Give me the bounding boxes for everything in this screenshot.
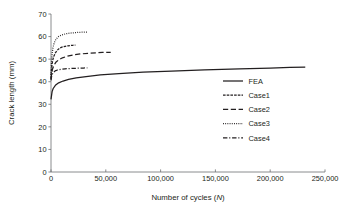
axes: [51, 14, 325, 172]
legend-label-fea: FEA: [249, 77, 263, 86]
x-axis-title: Number of cycles (N): [151, 193, 225, 202]
legend-label-case1: Case1: [249, 91, 270, 100]
x-tick-label: 50,000: [94, 174, 117, 183]
x-tick-label: 250,000: [312, 174, 339, 183]
y-axis-tick-labels: 010203040506070: [38, 10, 46, 177]
legend-label-case2: Case2: [249, 105, 270, 114]
y-tick-label: 30: [38, 100, 46, 109]
chart-legend: FEACase1Case2Case3Case4: [223, 77, 270, 143]
chart-figure: 010203040506070 050,000100,000150,000200…: [0, 0, 349, 208]
y-tick-label: 20: [38, 123, 46, 132]
line-chart: 010203040506070 050,000100,000150,000200…: [0, 0, 349, 208]
x-tick-label: 150,000: [202, 174, 229, 183]
y-tick-label: 50: [38, 55, 46, 64]
legend-label-case3: Case3: [249, 119, 270, 128]
series-line-case1: [51, 45, 75, 78]
y-axis-title: Crack length (mm): [7, 61, 16, 126]
x-tick-label: 0: [49, 174, 53, 183]
y-tick-label: 70: [38, 10, 46, 19]
x-axis-title-main: Number of cycles (: [151, 193, 216, 202]
y-tick-label: 0: [42, 168, 46, 177]
series-line-case4: [51, 68, 87, 80]
y-tick-label: 10: [38, 145, 46, 154]
data-series-group: [51, 32, 305, 99]
x-axis-title-tail: ): [222, 193, 225, 202]
plot-area: 010203040506070 050,000100,000150,000200…: [38, 10, 338, 183]
y-tick-label: 60: [38, 32, 46, 41]
x-tick-label: 100,000: [147, 174, 174, 183]
x-axis-tick-labels: 050,000100,000150,000200,000250,000: [49, 174, 338, 183]
legend-label-case4: Case4: [249, 134, 270, 143]
x-tick-label: 200,000: [257, 174, 284, 183]
y-tick-label: 40: [38, 77, 46, 86]
